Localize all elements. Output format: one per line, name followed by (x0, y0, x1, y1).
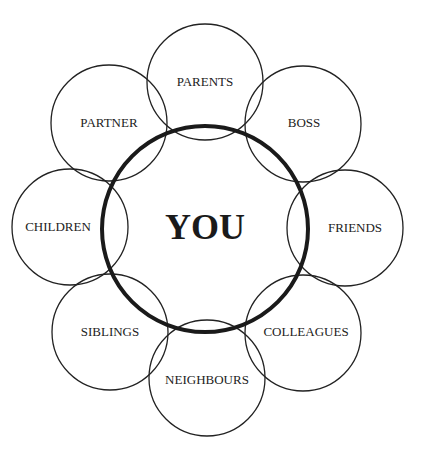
relationship-diagram: PARENTS BOSS FRIENDS COLLEAGUES NEIGHBOU… (0, 0, 421, 455)
node-label: CHILDREN (25, 219, 91, 234)
node-label: NEIGHBOURS (165, 372, 249, 387)
node-label: BOSS (288, 115, 321, 130)
node-label: SIBLINGS (81, 324, 140, 339)
center-label: YOU (165, 207, 245, 247)
node-partner: PARTNER (51, 65, 167, 181)
node-colleagues: COLLEAGUES (245, 275, 361, 391)
node-label: COLLEAGUES (263, 324, 348, 339)
node-label: PARENTS (177, 74, 234, 89)
node-label: PARTNER (80, 115, 138, 130)
node-friends: FRIENDS (287, 170, 403, 286)
center-node-you: YOU (102, 126, 308, 332)
node-neighbours: NEIGHBOURS (149, 320, 265, 436)
node-label: FRIENDS (328, 220, 382, 235)
node-siblings: SIBLINGS (52, 274, 168, 390)
node-boss: BOSS (245, 66, 361, 182)
